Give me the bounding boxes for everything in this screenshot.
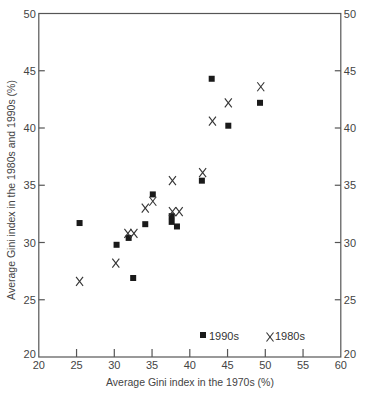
series-1990s: [77, 76, 263, 281]
data-point-x-icon: [142, 204, 149, 213]
y-tick-label-right: 35: [344, 179, 356, 191]
legend: 1990s 1980s: [200, 330, 305, 342]
data-point-x-icon: [176, 207, 183, 216]
x-tick-label: 35: [146, 359, 158, 371]
legend-label-1980s: 1980s: [275, 330, 305, 342]
y-tick-label-left: 25: [24, 294, 36, 306]
data-point-x-icon: [130, 229, 137, 238]
y-tick-label-left: 40: [24, 122, 36, 134]
data-series: [76, 76, 264, 286]
plot-frame: [39, 14, 341, 358]
data-point-x-icon: [169, 176, 176, 185]
x-tick-label: 45: [221, 359, 233, 371]
y-tick-label-left: 45: [24, 65, 36, 77]
data-point-square-icon: [225, 123, 231, 129]
data-point-x-icon: [76, 277, 83, 286]
data-point-x-icon: [257, 82, 264, 91]
y-axis-ticks-left: 20253035404550: [24, 8, 45, 361]
data-point-square-icon: [174, 223, 180, 229]
x-tick-label: 25: [70, 359, 82, 371]
y-tick-label-right: 25: [344, 294, 356, 306]
y-tick-label-left: 50: [24, 8, 36, 20]
x-tick-label: 30: [108, 359, 120, 371]
data-point-square-icon: [130, 275, 136, 281]
data-point-x-icon: [112, 259, 119, 268]
data-point-square-icon: [209, 76, 215, 82]
y-axis-ticks-right: 20253035404550: [335, 8, 356, 361]
data-point-x-icon: [149, 197, 156, 206]
y-tick-label-left: 30: [24, 237, 36, 249]
x-axis-ticks: 202530354045505560: [33, 349, 347, 371]
x-axis-title: Average Gini index in the 1970s (%): [106, 376, 274, 388]
data-point-square-icon: [142, 221, 148, 227]
legend-square-marker-icon: [200, 332, 206, 338]
y-axis-title: Average Gini index in the 1980s and 1990…: [5, 80, 17, 300]
data-point-x-icon: [225, 98, 232, 107]
y-tick-label-right: 30: [344, 237, 356, 249]
series-1980s: [76, 82, 264, 286]
data-point-square-icon: [257, 100, 263, 106]
data-point-x-icon: [199, 168, 206, 177]
y-tick-label-right: 45: [344, 65, 356, 77]
y-tick-label-left: 20: [24, 348, 36, 360]
data-point-x-icon: [209, 117, 216, 126]
x-tick-label: 20: [33, 359, 45, 371]
plot-border: [39, 14, 341, 358]
legend-label-1990s: 1990s: [209, 330, 239, 342]
data-point-square-icon: [150, 191, 156, 197]
y-tick-label-right: 50: [344, 8, 356, 20]
data-point-square-icon: [114, 242, 120, 248]
x-tick-label: 60: [335, 359, 347, 371]
x-tick-label: 40: [184, 359, 196, 371]
data-point-square-icon: [169, 219, 175, 225]
x-tick-label: 55: [297, 359, 309, 371]
data-point-square-icon: [77, 220, 83, 226]
scatter-chart: 202530354045505560 20253035404550 202530…: [0, 0, 371, 400]
data-point-square-icon: [199, 178, 205, 184]
y-tick-label-right: 20: [344, 348, 356, 360]
x-tick-label: 50: [259, 359, 271, 371]
y-tick-label-left: 35: [24, 179, 36, 191]
legend-x-marker-icon: [267, 333, 274, 342]
y-tick-label-right: 40: [344, 122, 356, 134]
